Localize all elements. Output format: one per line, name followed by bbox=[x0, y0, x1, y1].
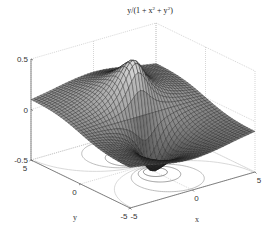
title: y/(1 + x2 + y2) bbox=[127, 6, 173, 15]
svg-text:y/(1 + x2 + y2): y/(1 + x2 + y2) bbox=[127, 6, 173, 15]
svg-text:5: 5 bbox=[23, 164, 28, 173]
surface-mesh bbox=[31, 60, 255, 171]
svg-text:x: x bbox=[195, 215, 199, 224]
svg-text:0.5: 0.5 bbox=[17, 55, 29, 64]
surface-plot: y/(1 + x2 + y2) -0.500.5-505-505 x y bbox=[0, 0, 273, 238]
svg-text:0: 0 bbox=[24, 106, 29, 115]
svg-text:-5: -5 bbox=[130, 212, 138, 221]
svg-text:y: y bbox=[73, 213, 77, 222]
svg-text:0: 0 bbox=[194, 194, 199, 203]
x-axis-label: x bbox=[195, 215, 199, 224]
svg-text:5: 5 bbox=[257, 176, 262, 185]
svg-text:0: 0 bbox=[72, 188, 77, 197]
svg-text:-5: -5 bbox=[120, 212, 128, 221]
y-axis-label: y bbox=[73, 213, 77, 222]
